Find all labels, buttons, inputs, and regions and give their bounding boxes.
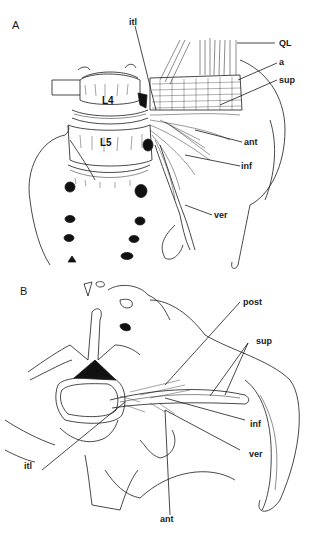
panel-a-drawing [29, 26, 285, 268]
callout-a-a: a [279, 58, 284, 67]
panel-label-a: A [12, 20, 19, 31]
callout-b-ver: ver [249, 450, 263, 459]
callout-a-itl: itl [129, 18, 137, 27]
callout-b-sup: sup [256, 337, 272, 346]
vertebra-label-l4: L4 [102, 96, 114, 106]
callout-b-ant: ant [160, 515, 174, 524]
callout-a-inf: inf [241, 162, 252, 171]
vertebra-label-l5: L5 [100, 138, 112, 148]
callout-b-inf: inf [250, 420, 261, 429]
panel-b-drawing [5, 282, 299, 515]
callout-a-ver: ver [214, 211, 228, 220]
callout-a-ant: ant [244, 138, 258, 147]
panel-label-b: B [20, 286, 27, 297]
callout-a-sup: sup [279, 76, 295, 85]
callout-b-post: post [243, 298, 262, 307]
callout-b-itl: itl [24, 462, 32, 471]
callout-a-ql: QL [279, 39, 292, 48]
anatomical-drawing [0, 0, 317, 540]
